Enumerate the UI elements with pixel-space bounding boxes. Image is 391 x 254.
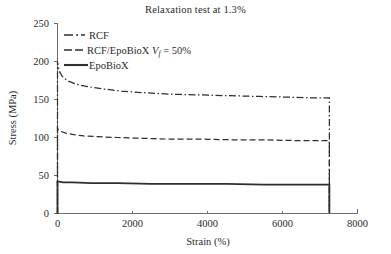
series-group [58, 62, 330, 214]
series-line-epobiox [58, 182, 330, 214]
chart-plot-area: 250 200 150 100 50 0 0 2000 4000 6000 80… [0, 0, 391, 254]
x-tick-label-4000: 4000 [197, 218, 218, 229]
y-axis-title: Stress (MPa) [7, 90, 19, 145]
y-tick-label-150: 150 [33, 94, 49, 105]
y-tick-label-250: 250 [33, 18, 49, 29]
x-tick-label-6000: 6000 [272, 218, 293, 229]
y-tick-label-200: 200 [33, 56, 49, 67]
series-line-rcf [58, 62, 330, 214]
y-tick-label-0: 0 [44, 208, 49, 219]
chart-legend: RCF RCF/EpoBioX Vf = 50% EpoBioX [64, 30, 191, 71]
x-tick-label-0: 0 [55, 218, 60, 229]
x-axis-ticks [58, 209, 358, 214]
legend-label-rcf-epobiox: RCF/EpoBioX Vf = 50% [87, 45, 191, 58]
x-tick-label-8000: 8000 [347, 218, 368, 229]
legend-label-rcf: RCF [89, 30, 109, 41]
x-axis-title: Strain (%) [186, 236, 230, 248]
legend-label-epobiox: EpoBioX [89, 60, 129, 71]
series-line-rcf-epobiox [58, 128, 330, 213]
x-tick-label-2000: 2000 [122, 218, 143, 229]
y-tick-label-100: 100 [33, 132, 49, 143]
relaxation-test-chart-figure: Relaxation test at 1.3% 250 200 150 100 … [0, 0, 391, 254]
y-tick-label-50: 50 [39, 170, 50, 181]
